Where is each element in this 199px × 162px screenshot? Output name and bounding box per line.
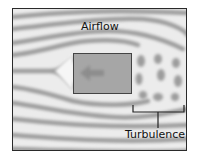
object-block: [73, 53, 132, 94]
turbulence-bracket: [132, 104, 187, 129]
diagram-frame: Airflow Turbulence: [12, 8, 187, 151]
arrow-left-icon: [74, 54, 131, 93]
airflow-label: Airflow: [81, 21, 119, 33]
turbulence-label: Turbulence: [125, 129, 185, 141]
